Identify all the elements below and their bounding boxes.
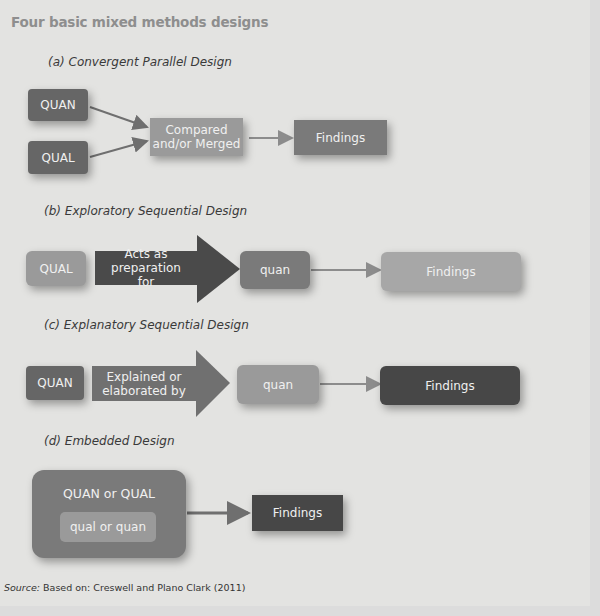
quan-middle-box-b: quan [240, 251, 310, 289]
qual-start-label: QUAL [39, 262, 72, 276]
merge-line1: Compared [165, 123, 227, 137]
source-note: Source: Based on: Creswell and Plano Cla… [4, 582, 245, 593]
findings-box-b: Findings [381, 252, 521, 291]
quan-middle-label-c: quan [263, 378, 293, 392]
explained-elaborated-arrow: Explained or elaborated by [92, 350, 230, 417]
quan-start-label: QUAN [37, 376, 72, 390]
findings-label-c: Findings [425, 379, 474, 393]
quan-middle-box-c: quan [237, 365, 319, 404]
design-a-label: (a) Convergent Parallel Design [48, 55, 232, 69]
design-b-label: (b) Exploratory Sequential Design [44, 204, 247, 218]
findings-label-b: Findings [426, 265, 475, 279]
arrow-c-line1: Explained or [106, 370, 181, 384]
qual-box: QUAL [28, 141, 88, 174]
quan-or-qual-outer-box: QUAN or QUAL qual or quan [32, 470, 186, 558]
quan-label: QUAN [40, 98, 75, 112]
source-text: Based on: Creswell and Plano Clark (2011… [40, 582, 245, 593]
qual-or-quan-inner-box: qual or quan [60, 512, 156, 542]
quan-box: QUAN [28, 89, 88, 121]
compared-merged-box: Compared and/or Merged [150, 118, 243, 156]
findings-label-a: Findings [316, 131, 365, 145]
outer-label: QUAN or QUAL [32, 487, 186, 501]
inner-label: qual or quan [70, 520, 146, 534]
findings-label-d: Findings [273, 506, 322, 520]
qual-label: QUAL [41, 151, 74, 165]
design-d-label: (d) Embedded Design [44, 434, 175, 448]
findings-box-a: Findings [294, 120, 387, 155]
merge-line2: and/or Merged [153, 137, 241, 151]
source-prefix: Source: [4, 582, 40, 593]
figure-page: Four basic mixed methods designs (a) Con… [0, 0, 590, 606]
quan-middle-label-b: quan [260, 263, 290, 277]
quan-start-box: QUAN [26, 366, 84, 400]
findings-box-c: Findings [380, 366, 520, 405]
arrow-b-line2: for [138, 275, 155, 289]
arrow-b-line1: Acts as preparation [95, 247, 197, 275]
qual-start-box: QUAL [26, 251, 86, 286]
design-c-label: (c) Explanatory Sequential Design [44, 318, 249, 332]
findings-box-d: Findings [252, 495, 343, 531]
arrow-c-line2: elaborated by [102, 384, 186, 398]
acts-as-preparation-arrow: Acts as preparation for [95, 235, 240, 303]
